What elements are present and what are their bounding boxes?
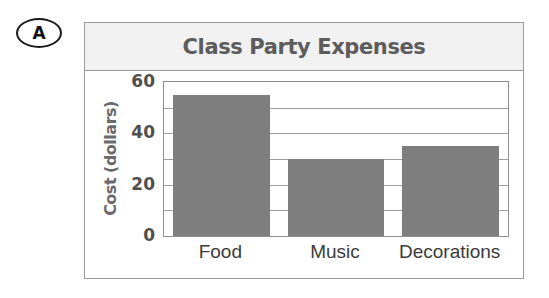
chart-title: Class Party Expenses <box>183 35 426 59</box>
x-axis-tick-label: Food <box>163 241 278 263</box>
bar <box>402 146 499 236</box>
y-axis-tick-label: 20 <box>131 174 155 194</box>
bar <box>288 159 385 236</box>
x-axis-tick-labels: FoodMusicDecorations <box>163 241 509 275</box>
y-axis-tick-label: 60 <box>131 71 155 91</box>
item-label-marker: A <box>16 18 62 48</box>
chart-title-banner: Class Party Expenses <box>85 23 523 71</box>
plot-area <box>163 81 509 237</box>
y-axis-title: Cost (dollars) <box>99 83 121 233</box>
y-axis-title-text: Cost (dollars) <box>101 101 120 216</box>
chart-figure: Class Party Expenses Cost (dollars) 0204… <box>84 22 524 279</box>
y-axis-tick-label: 40 <box>131 122 155 142</box>
y-axis-tick-label: 0 <box>143 225 155 245</box>
x-axis-tick-label: Decorations <box>392 241 507 263</box>
chart-body: Cost (dollars) 0204060 FoodMusicDecorati… <box>85 71 523 278</box>
bar <box>173 95 270 236</box>
y-axis-tick-labels: 0204060 <box>121 81 159 237</box>
x-axis-tick-label: Music <box>278 241 393 263</box>
item-label-letter: A <box>32 25 45 42</box>
bars-layer <box>164 82 508 236</box>
